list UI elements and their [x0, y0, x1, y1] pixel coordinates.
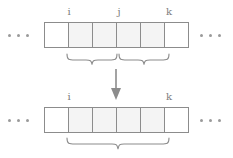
top-array-cell-3 — [116, 22, 141, 48]
top-array-cell-2 — [92, 22, 117, 48]
top-array-cell-5 — [164, 22, 189, 48]
bottom-array-cell-2 — [92, 107, 117, 133]
ellipsis-left-top-icon — [8, 22, 29, 48]
bottom-array-row — [0, 107, 233, 133]
bottom-array-cell-5 — [164, 107, 189, 133]
array-merge-diagram: i j k — [0, 0, 233, 158]
label-k-bottom: k — [163, 91, 175, 103]
brace-j-to-k — [118, 50, 170, 69]
bottom-array-cell-3 — [116, 107, 141, 133]
top-array-cell-0 — [44, 22, 69, 48]
ellipsis-right-bottom-icon — [200, 107, 221, 133]
bottom-array-cell-1 — [68, 107, 93, 133]
ellipsis-left-bottom-icon — [8, 107, 29, 133]
top-array-row — [0, 22, 233, 48]
label-j-top: j — [113, 6, 125, 18]
bottom-array-cell-0 — [44, 107, 69, 133]
brace-i-to-k — [66, 135, 170, 154]
brace-i-to-j — [66, 50, 118, 69]
top-array — [44, 22, 189, 48]
bottom-array — [44, 107, 189, 133]
label-i-bottom: i — [63, 91, 75, 103]
bottom-array-cell-4 — [140, 107, 165, 133]
merge-arrow-icon — [108, 69, 124, 105]
label-k-top: k — [163, 6, 175, 18]
top-array-cell-4 — [140, 22, 165, 48]
ellipsis-right-top-icon — [200, 22, 221, 48]
label-i-top: i — [63, 6, 75, 18]
top-array-cell-1 — [68, 22, 93, 48]
